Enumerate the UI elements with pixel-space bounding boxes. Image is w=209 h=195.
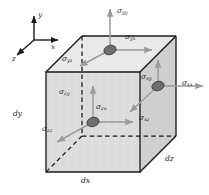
stress-label-sigma-yz: σyz	[62, 55, 73, 63]
stress-label-sigma-zy: σzy	[59, 88, 70, 96]
stress-label-sigma-zz: σzz	[42, 125, 52, 133]
axis-z-arrow	[17, 40, 34, 55]
stress-label-sigma-xy: σxy	[141, 73, 152, 81]
dimension-label-dx: dx	[81, 177, 90, 185]
sigma-xy-sub: xy	[146, 75, 152, 81]
sigma-yz-sub: yz	[67, 57, 73, 63]
axis-label-y: y	[38, 11, 42, 18]
sigma-xx-sub: xx	[187, 81, 193, 87]
sigma-yy-sub: yy	[122, 9, 128, 15]
sigma-zy-sub: zy	[64, 90, 70, 96]
axis-label-x: x	[51, 43, 55, 50]
sigma-zz-sub: zz	[47, 127, 52, 133]
stress-element-figure: y x z σyy σyx σyz σxx σxy σxz σzz σzy σz…	[0, 0, 209, 195]
cube-drawing	[0, 0, 209, 195]
stress-label-sigma-xz: σxz	[139, 114, 150, 122]
axis-label-z: z	[12, 55, 16, 62]
stress-label-sigma-xx: σxx	[182, 79, 193, 87]
stress-label-sigma-yx: σyx	[125, 33, 136, 41]
sigma-xz-sub: xz	[144, 116, 150, 122]
dimension-label-dz: dz	[165, 155, 174, 163]
sigma-zx-sub: zx	[101, 105, 107, 111]
stress-label-sigma-yy: σyy	[117, 7, 128, 15]
dimension-label-dy: dy	[13, 110, 22, 118]
sigma-yx-sub: yx	[130, 35, 136, 41]
stress-label-sigma-zx: σzx	[96, 103, 107, 111]
